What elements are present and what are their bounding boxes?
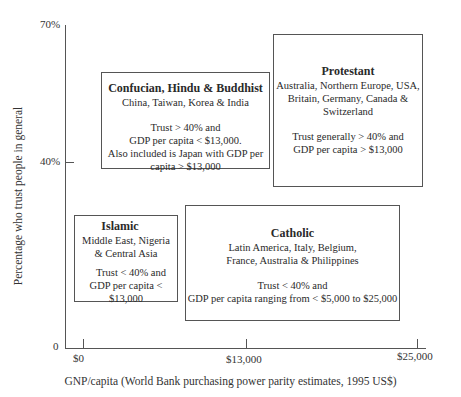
region-criteria: Trust > 40% and [102,121,269,134]
region-criteria: GDP per capita ranging from < $5,000 to … [186,292,399,305]
region-countries: France, Australia & Philippines [186,254,399,267]
x-tick-label-25000: $25,000 [397,350,433,362]
region-countries: Latin America, Italy, Belgium, [186,241,399,254]
region-islamic: Islamic Middle East, Nigeria & Central A… [74,215,178,302]
region-countries: Australia, Northern Europe, USA, [274,79,422,92]
y-tick-label-70: 70% [40,18,60,30]
region-protestant: Protestant Australia, Northern Europe, U… [273,34,423,187]
x-tick-label-13000: $13,000 [226,353,262,365]
x-axis-title: GNP/capita (World Bank purchasing power … [0,375,461,387]
x-tick-13000 [246,339,247,348]
region-criteria: capita > $13,000 [102,160,269,173]
region-countries: Britain, Germany, Canada & [274,92,422,105]
region-criteria: Trust generally > 40% and [274,130,422,143]
y-axis-title: Percentage who trust people in general [12,96,24,296]
y-tick-40 [65,162,74,163]
region-countries: Middle East, Nigeria [75,234,177,247]
region-title: Protestant [274,64,422,79]
region-criteria: GDP per capita < [75,279,177,292]
region-title: Confucian, Hindu & Buddhist [102,81,269,96]
region-criteria: GDP per capita < $13,000. [102,134,269,147]
region-title: Islamic [63,219,177,234]
y-axis [65,25,66,349]
region-countries: & Central Asia [75,247,177,260]
x-axis [65,348,426,349]
x-tick-25000 [417,339,418,348]
region-criteria: GDP per capita > $13,000 [274,143,422,156]
y-tick-label-40: 40% [40,155,60,167]
region-criteria: $13,000 [75,292,177,305]
region-criteria: Trust < 40% and [75,266,177,279]
region-countries: Switzerland [274,105,422,118]
region-criteria: Also included is Japan with GDP per [102,147,269,160]
x-tick-0 [83,339,84,348]
region-catholic: Catholic Latin America, Italy, Belgium, … [185,205,400,321]
x-tick-label-0: $0 [73,352,84,364]
region-confucian-hindu-buddhist: Confucian, Hindu & Buddhist China, Taiwa… [101,72,270,169]
region-criteria: Trust < 40% and [186,279,399,292]
region-title: Catholic [186,226,399,241]
y-tick-label-0: 0 [53,340,59,352]
region-countries: China, Taiwan, Korea & India [102,96,269,109]
